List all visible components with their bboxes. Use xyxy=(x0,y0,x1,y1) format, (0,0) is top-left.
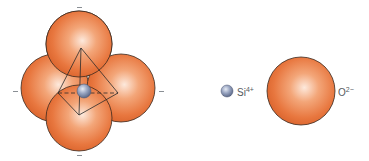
tetrahedron-group xyxy=(21,11,155,151)
oxygen-charge: 2− xyxy=(346,86,354,93)
silicon-ion-center xyxy=(77,84,91,98)
charge-mark-left xyxy=(13,91,18,92)
oxygen-label: O2− xyxy=(338,86,354,98)
silicon-charge: 4+ xyxy=(246,86,254,93)
oxygen-ion-legend xyxy=(267,57,335,125)
silicate-tetrahedron-diagram xyxy=(0,0,369,161)
charge-mark-top xyxy=(77,7,82,8)
charge-mark-bottom xyxy=(77,155,82,156)
oxygen-sphere-top-overlay xyxy=(46,11,112,77)
oxygen-symbol: O xyxy=(338,87,346,98)
charge-mark-right xyxy=(159,91,164,92)
silicon-symbol: Si xyxy=(237,87,246,98)
silicon-ion-legend xyxy=(221,85,233,97)
silicon-label: Si4+ xyxy=(237,86,254,98)
